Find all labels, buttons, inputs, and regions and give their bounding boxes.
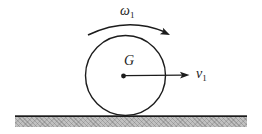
center-point-label: G [124, 54, 134, 68]
ground-surface [15, 117, 247, 127]
angular-velocity-subscript: 1 [130, 10, 135, 20]
angular-velocity-label: ω1 [120, 4, 134, 20]
diagram-canvas: ω1 G v1 [0, 0, 262, 134]
velocity-vector-line [125, 75, 182, 76]
angular-velocity-arc [88, 25, 165, 35]
center-point-dot [121, 74, 126, 79]
angular-velocity-symbol: ω [120, 3, 130, 18]
velocity-subscript: 1 [202, 73, 207, 83]
velocity-label: v1 [196, 67, 207, 83]
angular-velocity-arrowhead-icon [160, 28, 172, 39]
